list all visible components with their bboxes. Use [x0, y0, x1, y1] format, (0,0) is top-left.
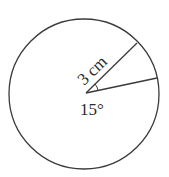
angle-arc	[95, 84, 98, 91]
radius-label: 3 cm	[74, 52, 111, 89]
circle	[9, 19, 159, 169]
circle-diagram: 3 cm 15°	[0, 0, 169, 177]
angle-label: 15°	[80, 100, 104, 119]
